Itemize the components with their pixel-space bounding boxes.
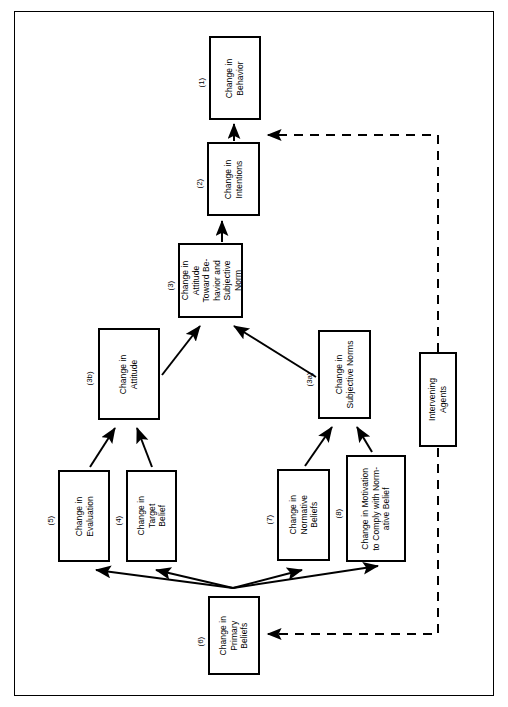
node-intervening-agents[interactable]: Intervening Agents — [419, 352, 457, 447]
node-change-in-target-belief[interactable]: Change in Target Belief — [126, 470, 177, 562]
node-change-in-behavior[interactable]: Change in Behavior — [209, 36, 261, 120]
node-change-in-evaluation[interactable]: Change in Evaluation — [58, 470, 110, 562]
node-change-in-motivation-to-comply[interactable]: Change in Motivation to Comply with Norm… — [346, 455, 406, 562]
node-4-text: Change in Target Belief — [136, 496, 168, 536]
node-8-number: (8) — [334, 499, 343, 519]
node-3b-text: Change in Attitude — [119, 354, 140, 394]
node-change-in-subjective-norms[interactable]: Change in Subjective Norms — [318, 330, 371, 419]
node-3-number: (3) — [166, 271, 175, 291]
node-6-text: Change in Primary Beliefs — [218, 616, 250, 656]
node-change-in-attitude[interactable]: Change in Attitude — [98, 328, 160, 420]
node-3a-text: Change in Subjective Norms — [334, 340, 355, 408]
node-change-in-primary-beliefs[interactable]: Change in Primary Beliefs — [208, 596, 260, 675]
node-3b-number: (3b) — [85, 362, 94, 386]
node-change-in-intentions[interactable]: Change in Intentions — [207, 142, 260, 216]
node-change-in-normative-beliefs[interactable]: Change in Normative Beliefs — [277, 469, 330, 561]
node-7-text: Change in Normative Beliefs — [288, 495, 320, 535]
node-6-number: (6) — [196, 627, 205, 647]
node-intervening-agents-text: Intervening Agents — [428, 378, 449, 421]
node-8-text: Change in Motivation to Comply with Norm… — [360, 467, 392, 551]
node-4-number: (4) — [114, 506, 123, 526]
node-3-text: Change in Attitude Toward Be- havior and… — [179, 259, 242, 303]
node-2-number: (2) — [195, 169, 204, 189]
diagram-page: Change in Behavior (1) Change in Intenti… — [0, 0, 508, 707]
node-1-text: Change in Behavior — [225, 58, 246, 98]
node-5-number: (5) — [46, 506, 55, 526]
node-7-number: (7) — [265, 505, 274, 525]
node-change-in-attitude-toward-behavior-and-subjective-norm[interactable]: Change in Attitude Toward Be- havior and… — [178, 243, 243, 318]
node-3a-number: (3a) — [305, 363, 314, 387]
node-1-number: (1) — [197, 68, 206, 88]
node-2-text: Change in Intentions — [223, 159, 244, 199]
node-5-text: Change in Evaluation — [73, 496, 94, 537]
